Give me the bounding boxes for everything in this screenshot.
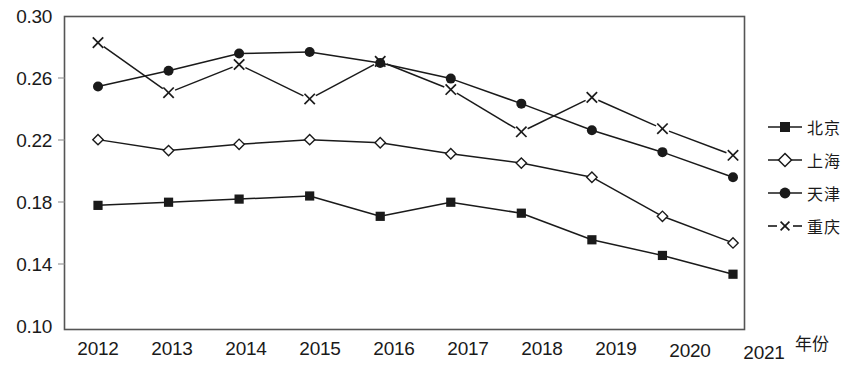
legend-item-chongqing[interactable]: 重庆 (766, 209, 852, 242)
data-point (728, 172, 738, 182)
data-point (446, 74, 456, 84)
data-point (587, 92, 597, 102)
data-point (446, 149, 456, 159)
legend-item-beijing[interactable]: 北京 (766, 110, 852, 143)
xtick-label-2016: 2016 (359, 338, 429, 360)
series-天津 (93, 47, 738, 182)
data-point (516, 99, 526, 109)
xtick-label-2018: 2018 (507, 338, 577, 360)
plot-frame (65, 17, 745, 330)
legend-label-beijing: 北京 (804, 115, 840, 139)
xtick-label-2019: 2019 (581, 338, 651, 360)
data-point (587, 172, 597, 182)
data-point (163, 87, 173, 97)
plot-area (0, 0, 853, 367)
chart-legend: 北京 上海 天津 (766, 110, 852, 242)
data-point (587, 235, 596, 244)
series-layer (93, 37, 738, 278)
data-point (516, 158, 526, 168)
x-axis-title: 年份 (795, 330, 829, 355)
data-point (516, 127, 526, 137)
data-point (235, 195, 244, 204)
data-point (446, 198, 455, 207)
data-point (234, 49, 244, 59)
data-point (728, 150, 738, 160)
xtick-label-2020: 2020 (655, 340, 725, 362)
line-chart-figure: 0.30 0.26 0.22 0.18 0.14 0.10 2012 2013 … (0, 0, 853, 367)
data-point (305, 47, 315, 57)
legend-label-tianjin: 天津 (804, 181, 840, 205)
legend-marker-open-diamond-icon (766, 151, 804, 169)
xtick-label-2017: 2017 (433, 338, 503, 360)
data-point (304, 94, 314, 104)
data-point (164, 66, 174, 76)
data-point (375, 58, 385, 68)
legend-item-tianjin[interactable]: 天津 (766, 176, 852, 209)
legend-marker-cross-x-icon (766, 217, 804, 235)
legend-item-shanghai[interactable]: 上海 (766, 143, 852, 176)
data-point (93, 201, 102, 210)
data-point (728, 270, 737, 279)
data-point (517, 209, 526, 218)
data-point (657, 123, 667, 133)
legend-marker-filled-square-icon (766, 118, 804, 136)
data-point (446, 84, 456, 94)
data-point (304, 134, 314, 144)
series-上海 (93, 134, 738, 248)
data-point (376, 212, 385, 221)
data-point (163, 145, 173, 155)
data-point (658, 251, 667, 260)
data-point (234, 59, 244, 69)
data-point (375, 138, 385, 148)
data-point (93, 37, 103, 47)
data-point (164, 198, 173, 207)
data-point (587, 125, 597, 135)
data-point (657, 147, 667, 157)
legend-label-shanghai: 上海 (804, 148, 840, 172)
data-point (657, 211, 667, 221)
xtick-label-2021: 2021 (729, 342, 799, 364)
data-point (728, 238, 738, 248)
y-axis-ticks (58, 78, 65, 264)
data-point (305, 191, 314, 200)
legend-label-chongqing: 重庆 (804, 214, 840, 238)
xtick-label-2013: 2013 (137, 338, 207, 360)
legend-marker-filled-circle-icon (766, 184, 804, 202)
data-point (93, 134, 103, 144)
xtick-label-2014: 2014 (211, 338, 281, 360)
series-重庆 (93, 37, 738, 160)
data-point (234, 139, 244, 149)
xtick-label-2012: 2012 (63, 338, 133, 360)
data-point (93, 81, 103, 91)
xtick-label-2015: 2015 (285, 338, 355, 360)
